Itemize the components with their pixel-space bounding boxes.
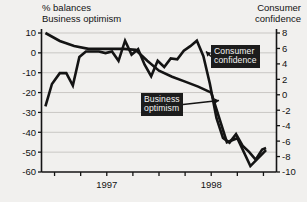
- svg-text:2: 2: [282, 74, 287, 85]
- svg-text:-2: -2: [282, 105, 290, 116]
- left-axis-title-line1: % balances: [42, 2, 91, 13]
- svg-text:-20: -20: [22, 87, 36, 98]
- left-axis-title: % balancesBusiness optimism: [42, 2, 121, 24]
- right-axis-title: Consumerconfidence: [255, 2, 301, 24]
- svg-text:4: 4: [282, 58, 287, 69]
- svg-text:-50: -50: [22, 147, 36, 158]
- left-axis-title-line2: Business optimism: [42, 13, 121, 24]
- callout-consumer-confidence: Consumer confidence: [211, 45, 260, 68]
- svg-text:1998: 1998: [201, 179, 222, 190]
- right-axis-title-line2: confidence: [255, 13, 301, 24]
- svg-text:8: 8: [282, 27, 287, 38]
- callout-business-optimism: Business optimism: [141, 93, 183, 116]
- svg-text:1997: 1997: [96, 179, 117, 190]
- svg-text:-10: -10: [282, 166, 296, 177]
- svg-text:-40: -40: [22, 127, 36, 138]
- svg-text:-30: -30: [22, 107, 36, 118]
- chart-container: % balancesBusiness optimism Consumerconf…: [0, 0, 307, 202]
- svg-text:6: 6: [282, 43, 287, 54]
- svg-text:10: 10: [25, 27, 36, 38]
- svg-text:-6: -6: [282, 136, 290, 147]
- svg-text:-10: -10: [22, 67, 36, 78]
- svg-text:0: 0: [282, 89, 287, 100]
- right-axis-title-line1: Consumer: [257, 2, 301, 13]
- svg-text:-60: -60: [22, 166, 36, 177]
- left-axis-ticks: 100-10-20-30-40-50-60: [22, 27, 41, 177]
- svg-text:0: 0: [31, 47, 36, 58]
- svg-text:-4: -4: [282, 120, 290, 131]
- right-axis-ticks: 86420-2-4-6-8-10: [277, 27, 296, 177]
- svg-text:-8: -8: [282, 151, 290, 162]
- x-axis-ticks: 19971998: [55, 172, 264, 190]
